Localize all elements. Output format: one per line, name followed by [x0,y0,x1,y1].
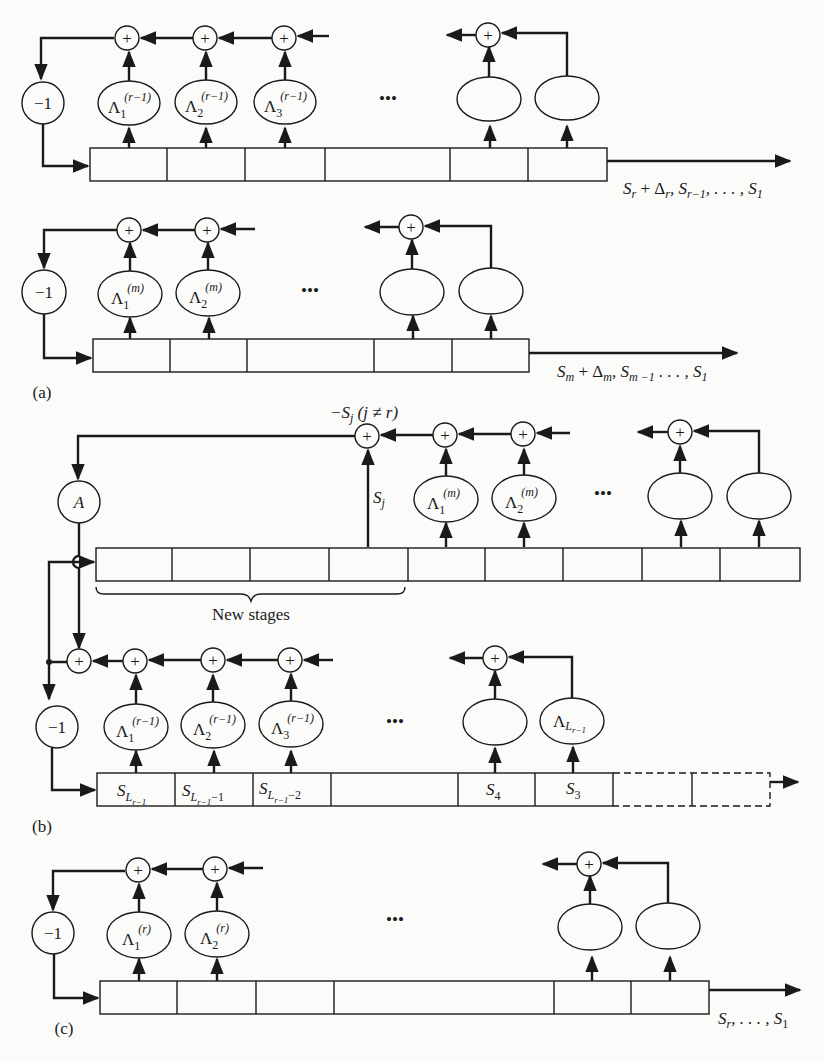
adder-symbol: + [130,652,140,671]
adder-symbol: + [285,651,295,670]
negate-label: −1 [35,283,53,302]
adder-symbol: + [362,427,372,446]
coefficient-node [459,268,523,314]
coefficient-node [380,269,444,315]
tap-label: Sj [373,488,386,510]
negate-label: −1 [34,94,52,113]
new-stages-label: New stages [212,605,290,624]
adder-symbol: + [279,29,289,48]
adder-symbol: + [490,649,500,668]
panel-label-b: (b) [32,817,52,836]
adder-symbol: + [133,861,143,880]
output-label: Sm + Δm, Sm −1 . . . , S1 [557,362,707,384]
output-label: Sr + Δr, Sr−1, . . . , S1 [623,179,763,201]
panel-b: A −Sj (j ≠ r) + Sj New stages [32,403,800,836]
panel-label-a: (a) [33,383,52,402]
ellipsis: ••• [386,910,404,929]
ellipsis: ••• [379,89,397,108]
lfsr-diagram: −1 Λ1(r−1) Λ2(r−1) Λ3(r−1) ••• [0,0,824,1062]
gain-label: A [73,493,85,512]
coefficient-node [535,76,599,120]
coefficient-node [636,903,700,949]
adder-symbol: + [124,221,134,240]
adder-symbol: + [518,425,528,444]
shift-register [90,148,607,181]
coefficient-node [463,699,527,745]
adder-symbol: + [483,26,493,45]
shift-register [93,339,529,372]
adder-symbol: + [440,426,450,445]
adder-symbol: + [200,29,210,48]
coefficient-node [648,473,712,519]
negate-label: −1 [48,718,66,737]
adder-symbol: + [202,221,212,240]
negate-label: −1 [44,924,62,943]
ellipsis: ••• [301,281,319,300]
coefficient-node [558,904,622,950]
shift-register-upper [96,548,800,581]
adder-symbol: + [584,855,594,874]
adder-symbol: + [406,218,416,237]
panel-c: −1 Λ1(r) Λ2(r) ••• + + + [32,852,800,1038]
panel-a-row2: −1 Λ1(m) Λ2(m) ••• + + + [22,215,737,402]
adder-symbol: + [122,29,132,48]
adder-symbol: + [210,860,220,879]
panel-label-c: (c) [55,1019,74,1038]
panel-a-row1: −1 Λ1(r−1) Λ2(r−1) Λ3(r−1) ••• [22,23,790,201]
new-stages-brace [96,587,405,601]
coefficient-node [727,473,791,519]
coefficient-node [457,77,521,121]
ellipsis: ••• [594,484,612,503]
adder-symbol: + [74,652,84,671]
output-label: Sr, . . . , S1 [718,1009,788,1031]
correction-label: −Sj (j ≠ r) [330,403,398,425]
ellipsis: ••• [386,712,404,731]
shift-register [100,981,709,1014]
adder-symbol: + [208,651,218,670]
adder-symbol: + [675,423,685,442]
